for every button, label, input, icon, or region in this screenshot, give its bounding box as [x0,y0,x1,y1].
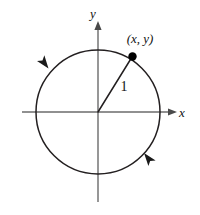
y-axis-label: y [88,6,96,21]
unit-circle-figure: y x (x, y) 1 [0,0,200,215]
unit-circle-svg: y x (x, y) 1 [0,0,200,215]
y-axis-arrowhead-icon [94,21,101,30]
x-axis-label: x [178,105,185,120]
point-label: (x, y) [127,31,154,46]
radius-label: 1 [121,79,128,94]
direction-arrow-lower-right-icon [140,150,155,166]
x-axis-arrowhead-icon [168,108,177,115]
direction-arrow-upper-left-icon [37,55,52,71]
point-marker [128,52,136,60]
